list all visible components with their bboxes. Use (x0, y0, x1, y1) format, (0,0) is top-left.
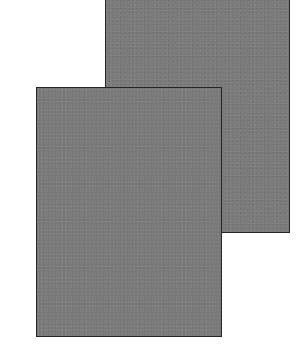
front-paper-sheet (36, 87, 222, 337)
